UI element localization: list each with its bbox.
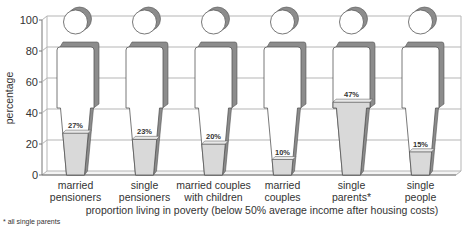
gridline-side [42, 78, 47, 82]
person-bar: 15% [402, 7, 444, 175]
gridline-side [42, 140, 47, 144]
data-label: 47% [344, 90, 359, 99]
category-label: married couples [176, 179, 251, 191]
floor [42, 171, 461, 175]
x-axis-label: proportion living in poverty (below 50% … [86, 204, 439, 216]
gridline-side [42, 47, 47, 51]
category-label: pensioners [50, 191, 101, 203]
person-bars: 27%23%20%10%47%15% [57, 7, 444, 175]
category-label: single [338, 179, 366, 191]
category-label: married [58, 179, 94, 191]
chart: 020406080100 27%23%20%10%47%15% marriedp… [0, 0, 472, 231]
category-label: single [407, 179, 435, 191]
category-label: married [265, 179, 301, 191]
y-tick-label: 100 [20, 14, 38, 26]
y-tick-label: 40 [26, 107, 38, 119]
category-label: parents* [332, 191, 371, 203]
category-labels: marriedpensionerssinglepensionersmarried… [50, 179, 437, 203]
y-tick-label: 80 [26, 45, 38, 57]
value-fill-top [63, 130, 91, 133]
value-fill-top [202, 141, 229, 144]
category-label: pensioners [119, 191, 170, 203]
head [202, 10, 226, 34]
gridline-side [42, 16, 47, 20]
value-fill-top [272, 157, 296, 160]
y-axis-label: percentage [3, 72, 15, 125]
value-fill-top [132, 136, 159, 139]
footnote: * all single parents [3, 218, 60, 225]
head [409, 10, 433, 34]
y-tick-label: 0 [32, 169, 38, 181]
value-fill [272, 160, 293, 176]
gridline-side [42, 109, 47, 113]
y-tick-label: 60 [26, 76, 38, 88]
y-axis-ticks: 020406080100 [20, 14, 42, 181]
head [133, 10, 157, 34]
head [340, 10, 364, 34]
person-bar: 27% [57, 7, 99, 175]
data-label: 27% [68, 121, 83, 130]
category-label: single [131, 179, 159, 191]
value-fill-top [333, 99, 373, 102]
data-label: 23% [137, 127, 152, 136]
data-label: 20% [206, 132, 221, 141]
person-bar: 20% [195, 7, 237, 175]
y-tick-label: 20 [26, 138, 38, 150]
data-label: 10% [275, 148, 290, 157]
gridlines [42, 16, 461, 175]
category-label: people [405, 191, 437, 203]
category-label: with children [183, 191, 243, 203]
value-fill [132, 139, 156, 175]
value-fill-top [409, 149, 434, 152]
person-bar: 10% [264, 7, 306, 175]
value-fill [409, 152, 431, 175]
value-fill [63, 133, 88, 175]
person-bar: 47% [333, 7, 375, 175]
head [64, 10, 88, 34]
value-fill [202, 144, 226, 175]
category-label: couples [264, 191, 300, 203]
person-bar: 23% [126, 7, 168, 175]
head [271, 10, 295, 34]
data-label: 15% [413, 140, 428, 149]
